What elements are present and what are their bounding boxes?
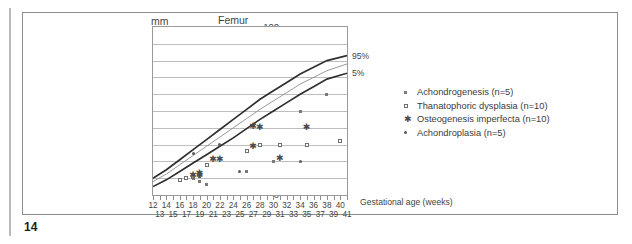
chart-title: Femur: [218, 14, 248, 26]
x-tick-mark: [327, 196, 328, 200]
data-point: ✱: [216, 157, 224, 162]
x-tick-mark: [153, 196, 154, 200]
x-tick-mark: [273, 196, 274, 200]
x-tick-mark: [340, 196, 341, 200]
x-tick-mark: [166, 196, 167, 200]
x-tick-mark: [260, 196, 261, 200]
x-tick-mark: [293, 196, 294, 200]
x-tick-mark: [253, 196, 254, 200]
legend-marker-icon: ✱: [404, 114, 414, 124]
curve-label-95: 95%: [352, 51, 369, 61]
x-tick-mark: [193, 196, 194, 200]
data-point: [299, 160, 302, 163]
data-point: [272, 160, 275, 163]
x-tick-mark: [227, 196, 228, 200]
x-tick-mark: [247, 196, 248, 200]
x-tick-mark: [173, 196, 174, 200]
x-tick-mark: [240, 196, 241, 200]
legend-item: Achondroplasia (n=5): [404, 127, 550, 139]
data-point: [305, 143, 309, 147]
legend-item: ✱Osteogenesis imperfecta (n=10): [404, 113, 550, 125]
data-point: [198, 180, 201, 183]
x-tick-mark: [186, 196, 187, 200]
legend-marker-icon: [404, 101, 414, 111]
data-point: ✱: [303, 125, 311, 130]
plot-area: ✱✱✱✱✱✱✱✱✱✱: [152, 26, 348, 196]
data-point: [299, 110, 302, 113]
x-tick-mark: [347, 196, 348, 200]
page-number: 14: [24, 220, 38, 234]
data-point: [325, 93, 328, 96]
data-point: [192, 152, 195, 155]
x-tick-mark: [267, 196, 268, 200]
x-tick-mark: [334, 196, 335, 200]
data-point: [245, 170, 248, 173]
data-point: ✱: [256, 125, 264, 130]
x-tick-mark: [220, 196, 221, 200]
data-point: [205, 163, 209, 167]
legend-label: Achondroplasia (n=5): [417, 128, 506, 138]
x-tick-mark: [207, 196, 208, 200]
page-margin-rule: [9, 8, 11, 236]
chart-legend: Achondrogenesis (n=5)Thanatophoric dyspl…: [404, 86, 550, 140]
legend-item: Achondrogenesis (n=5): [404, 86, 550, 98]
x-tick-mark: [200, 196, 201, 200]
percentile-curves: [153, 27, 347, 195]
data-point: ✱: [249, 144, 257, 149]
percentile-curve: [153, 56, 347, 179]
x-tick-mark: [180, 196, 181, 200]
legend-marker-icon: [404, 128, 414, 138]
x-tick-mark: [300, 196, 301, 200]
x-tick-mark: [233, 196, 234, 200]
x-tick-mark: [314, 196, 315, 200]
legend-label: Thanatophoric dysplasia (n=10): [417, 101, 548, 111]
data-point: [205, 183, 208, 186]
x-tick-mark: [287, 196, 288, 200]
data-point: ✱: [276, 156, 284, 161]
data-point: [338, 139, 342, 143]
x-tick-mark: [280, 196, 281, 200]
legend-item: Thanatophoric dysplasia (n=10): [404, 100, 550, 112]
data-point: [178, 178, 182, 182]
x-tick-mark: [307, 196, 308, 200]
x-axis-title: Gestational age (weeks): [360, 197, 453, 207]
data-point: [258, 143, 262, 147]
data-point: [245, 149, 249, 153]
data-point: [278, 143, 282, 147]
x-tick-label: 41: [339, 210, 355, 219]
x-tick-mark: [213, 196, 214, 200]
x-tick-mark: [320, 196, 321, 200]
data-point: ✱: [196, 171, 204, 176]
curve-label-5: 5%: [352, 68, 364, 78]
legend-label: Osteogenesis imperfecta (n=10): [417, 114, 550, 124]
figure-page: mm Femur 0102030405060708090100 ✱✱✱✱✱✱✱✱…: [0, 0, 632, 244]
data-point: [184, 176, 188, 180]
legend-marker-icon: [404, 87, 414, 97]
legend-label: Achondrogenesis (n=5): [417, 87, 513, 97]
x-tick-mark: [160, 196, 161, 200]
x-tick-label: 40: [332, 201, 348, 210]
